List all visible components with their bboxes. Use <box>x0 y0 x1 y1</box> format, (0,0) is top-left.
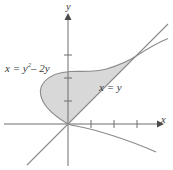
shaded-region <box>41 56 137 125</box>
curve-label-parabola: x = y2– 2y <box>5 63 50 74</box>
curve-label-parabola-prefix: x = y <box>5 62 28 74</box>
figure-container: x = y2– 2y x = y y x <box>0 0 173 170</box>
curve-label-line: x = y <box>99 82 122 93</box>
axis-label-x: x <box>161 115 166 126</box>
curve-label-parabola-suffix: – 2y <box>31 62 50 74</box>
y-axis-arrow-icon <box>65 13 72 20</box>
axis-label-y: y <box>66 2 71 13</box>
graph-plot <box>0 0 173 170</box>
